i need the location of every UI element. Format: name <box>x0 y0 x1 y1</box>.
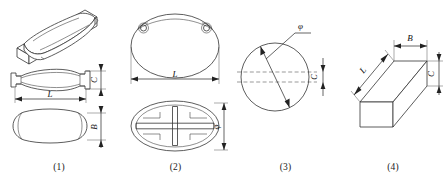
figure-4-drawing: L B C <box>338 0 448 162</box>
figure-1-label-C: C <box>89 76 99 83</box>
figure-2-label-phi: φ <box>211 124 221 129</box>
figure-1-dimension-L: L <box>15 88 86 103</box>
figure-panel-2: L <box>118 0 233 189</box>
figure-3-dimension-C: C <box>310 58 325 96</box>
figure-4-label-L: L <box>357 65 369 76</box>
figure-1-plan-view <box>13 109 87 143</box>
figure-1-dimension-C: C <box>86 64 106 96</box>
figure-4-label-B: B <box>407 33 413 43</box>
figure-1-front-elevation-view <box>11 69 90 91</box>
figure-1-caption: (1) <box>0 162 118 172</box>
figure-1-isometric-view <box>17 10 98 64</box>
figure-3-label-phi: φ <box>298 21 303 31</box>
figure-3-caption: (3) <box>233 162 338 172</box>
figure-2-dimension-phi: φ <box>211 103 228 150</box>
figure-4-dimension-C: C <box>426 52 443 95</box>
figure-4-isometric-view <box>360 61 427 127</box>
technical-drawing-sheet: L C B (1) <box>0 0 448 189</box>
figure-4-caption: (4) <box>338 162 448 172</box>
figure-3-label-C: C <box>310 74 319 80</box>
figure-2-bottom-view <box>131 101 219 151</box>
figure-4-label-C: C <box>426 70 436 77</box>
figure-1-label-B: B <box>89 124 99 130</box>
figure-2-label-L: L <box>171 69 177 79</box>
figure-panel-1: L C B (1) <box>0 0 118 189</box>
figure-2-drawing: L <box>118 0 233 162</box>
figure-1-drawing: L C B <box>0 0 118 162</box>
figure-panel-4: L B C (4) <box>338 0 448 189</box>
figure-1-label-L: L <box>46 89 52 99</box>
figure-2-caption: (2) <box>118 162 233 172</box>
figure-panel-3: φ C (3) <box>233 0 338 189</box>
figure-1-dimension-B: B <box>87 106 106 148</box>
figure-3-drawing: φ C <box>233 0 338 162</box>
figure-4-dimension-B: B <box>394 33 427 61</box>
